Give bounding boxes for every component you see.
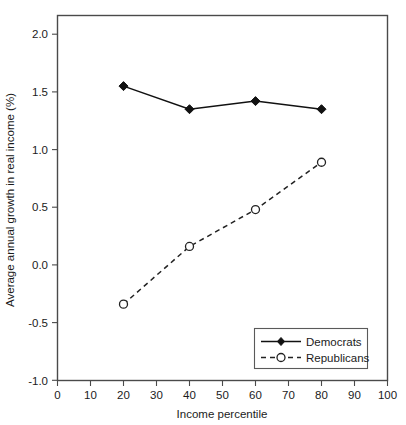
y-axis-ticks [52,34,58,380]
legend-label-republicans: Republicans [306,352,370,364]
x-tick-label: 40 [183,389,196,401]
x-tick-label: 60 [249,389,262,401]
x-axis-tick-labels: 0 10 20 30 40 50 60 70 80 90 100 [54,389,397,401]
x-tick-label: 50 [216,389,229,401]
y-axis-title: Average annual growth in real income (%) [4,93,16,307]
y-tick-label: 1.0 [32,144,48,156]
y-tick-label: 0.0 [32,259,48,271]
series-line-republicans-actual [124,162,322,304]
y-tick-label: 1.5 [32,86,48,98]
y-tick-label: -0.5 [28,317,48,329]
data-point-democrats [185,105,194,114]
y-tick-label: 0.5 [32,201,48,213]
x-tick-label: 30 [150,389,163,401]
plot-frame [58,16,388,381]
x-tick-label: 70 [282,389,295,401]
x-tick-label: 100 [378,389,397,401]
y-tick-label: 2.0 [32,28,48,40]
data-point-republicans [186,242,194,250]
x-tick-label: 10 [84,389,97,401]
data-point-republicans [252,206,260,214]
x-tick-label: 0 [54,389,60,401]
chart-container: 2.0 1.5 1.0 0.5 0.0 -0.5 -1.0 0 10 20 [0,0,406,425]
data-point-republicans [120,300,128,308]
legend-marker-circle-icon [277,354,285,362]
x-axis-title: Income percentile [177,408,268,420]
y-axis-tick-labels: 2.0 1.5 1.0 0.5 0.0 -0.5 -1.0 [28,28,48,386]
line-chart: 2.0 1.5 1.0 0.5 0.0 -0.5 -1.0 0 10 20 [0,0,406,425]
legend: Democrats Republicans [255,329,370,369]
legend-label-democrats: Democrats [306,336,362,348]
x-tick-label: 80 [315,389,328,401]
series-line-democrats [124,86,322,109]
y-tick-label: -1.0 [28,375,48,387]
x-tick-label: 90 [348,389,361,401]
series-markers-democrats [119,82,326,114]
x-tick-label: 20 [117,389,130,401]
data-point-republicans [318,158,326,166]
data-point-democrats [251,97,260,106]
data-point-democrats [119,82,128,91]
data-point-democrats [317,105,326,114]
